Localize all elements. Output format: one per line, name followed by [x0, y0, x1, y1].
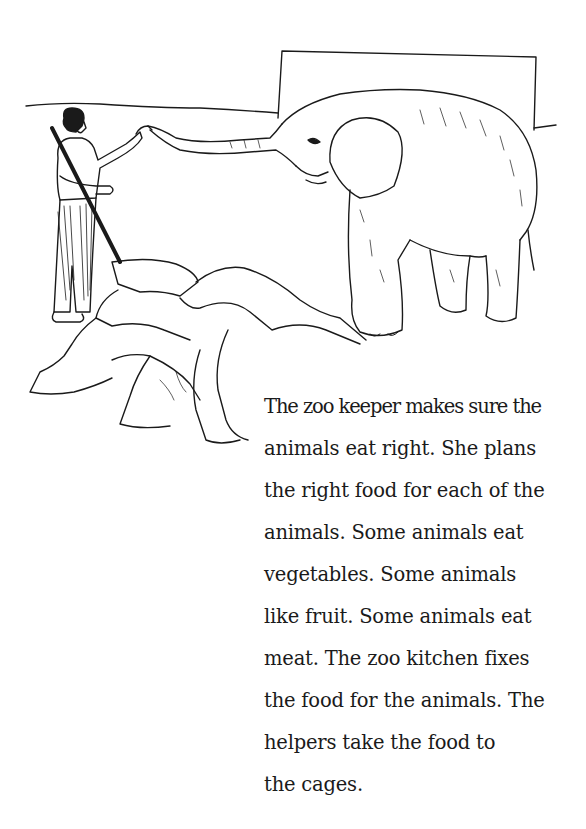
- text-line: the food for the animals. The: [264, 680, 586, 722]
- elephant: [148, 90, 537, 337]
- text-line: animals eat right. She plans: [264, 428, 586, 470]
- zoo-keeper: [52, 108, 152, 322]
- text-line: the cages.: [264, 764, 586, 806]
- text-line: the right food for each of the: [264, 470, 586, 512]
- text-line: The zoo keeper makes sure the: [264, 386, 586, 428]
- text-line: like fruit. Some animals eat: [264, 596, 586, 638]
- story-text: The zoo keeper makes sure the animals ea…: [264, 386, 586, 806]
- text-line: vegetables. Some animals: [264, 554, 586, 596]
- enclosure-wall: [26, 51, 556, 130]
- text-line: meat. The zoo kitchen fixes: [264, 638, 586, 680]
- text-line: animals. Some animals eat: [264, 512, 586, 554]
- text-line: helpers take the food to: [264, 722, 586, 764]
